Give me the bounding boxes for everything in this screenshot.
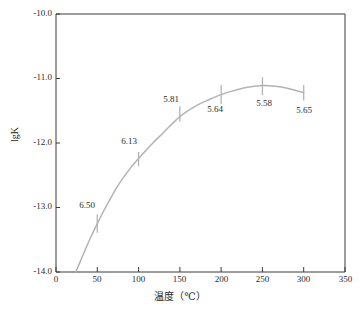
point-label-300c: 5.65 (290, 105, 318, 115)
y-tick-label-0: -10.0 (20, 8, 52, 18)
x-axis-title: 温度（℃） (0, 288, 360, 303)
x-tick-label-5: 250 (252, 274, 273, 284)
y-tick-label-2: -12.0 (20, 137, 52, 147)
x-tick-label-6: 300 (293, 274, 314, 284)
x-tick-label-1: 50 (87, 274, 107, 284)
x-tick-label-0: 0 (46, 274, 66, 284)
point-label-100c: 6.13 (115, 136, 143, 146)
x-tick-label-7: 350 (335, 274, 356, 284)
x-tick-label-4: 200 (211, 274, 232, 284)
y-axis-ticks (56, 14, 60, 272)
point-label-200c: 5.64 (201, 104, 229, 114)
y-axis-title: lgK (9, 115, 20, 155)
x-axis-ticks (56, 267, 345, 272)
plot-canvas (0, 0, 360, 309)
data-curve (76, 86, 304, 272)
x-tick-label-2: 100 (128, 274, 149, 284)
x-tick-label-3: 150 (169, 274, 190, 284)
chart-figure: -10.0 -11.0 -12.0 -13.0 -14.0 0 50 100 1… (0, 0, 360, 309)
point-label-250c: 5.58 (250, 98, 278, 108)
y-tick-label-1: -11.0 (20, 72, 52, 82)
point-label-150c: 5.81 (157, 94, 185, 104)
y-tick-label-3: -13.0 (20, 201, 52, 211)
point-label-50c: 6.50 (73, 200, 101, 210)
axis-frame (56, 14, 345, 272)
